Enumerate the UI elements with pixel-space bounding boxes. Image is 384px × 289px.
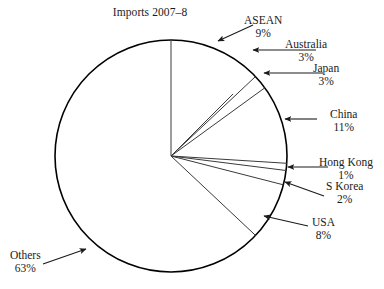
callout-name-others: Others [10,249,41,262]
callout-label-asean: ASEAN 9% [244,14,282,39]
leader-line-others [43,249,86,264]
leader-line-skorea [285,182,324,196]
callout-pct-others: 63% [10,262,41,275]
callout-pct-skorea: 2% [326,193,363,206]
callout-label-china: China 11% [330,108,357,133]
pie-slices [55,40,287,272]
callout-label-australia: Australia 3% [285,38,327,63]
callout-pct-usa: 8% [312,229,335,242]
callout-name-china: China [330,108,357,121]
callout-name-hongkong: Hong Kong [319,156,373,169]
callout-name-asean: ASEAN [244,14,282,27]
callout-pct-japan: 3% [313,75,339,88]
leader-line-usa [264,216,308,226]
callout-name-usa: USA [312,216,335,229]
callout-label-usa: USA 8% [312,216,335,241]
pie-chart-figure: Imports 2007–8 [0,0,384,289]
callout-name-australia: Australia [285,38,327,51]
callout-name-japan: Japan [313,62,339,75]
callout-pct-asean: 9% [244,27,282,40]
callout-label-others: Others 63% [10,249,41,274]
callout-label-hongkong: Hong Kong 1% [319,156,373,181]
callout-name-skorea: S Korea [326,180,363,193]
callout-label-skorea: S Korea 2% [326,180,363,205]
callout-label-japan: Japan 3% [313,62,339,87]
callout-pct-china: 11% [330,121,357,134]
